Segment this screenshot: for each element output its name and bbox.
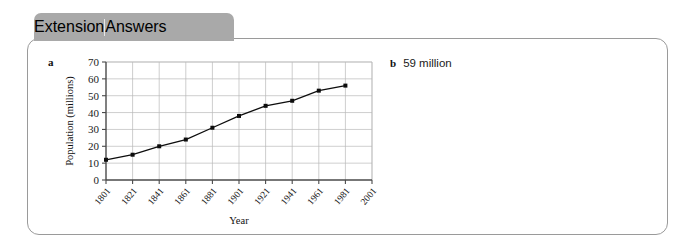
data-point-marker bbox=[104, 158, 108, 162]
x-tick-label: 2001 bbox=[359, 186, 379, 207]
population-line-chart: 0102030405060701801182118411861188119011… bbox=[60, 52, 380, 230]
x-tick-label: 1801 bbox=[93, 186, 113, 207]
x-tick-label: 1821 bbox=[119, 186, 139, 207]
data-point-marker bbox=[264, 104, 268, 108]
data-line bbox=[106, 86, 345, 160]
x-tick-label: 1921 bbox=[252, 186, 272, 207]
x-tick-label: 1861 bbox=[172, 186, 192, 207]
part-b-value: 59 million bbox=[403, 57, 452, 69]
part-a-label: a bbox=[48, 56, 54, 68]
y-tick-label: 60 bbox=[88, 73, 100, 85]
y-tick-label: 0 bbox=[94, 174, 100, 186]
x-tick-label: 1901 bbox=[226, 186, 246, 207]
data-point-marker bbox=[343, 84, 347, 88]
part-b-label: b bbox=[390, 57, 396, 69]
y-tick-label: 30 bbox=[88, 123, 100, 135]
x-tick-label: 1961 bbox=[305, 186, 325, 207]
y-tick-label: 70 bbox=[88, 56, 100, 68]
y-tick-label: 50 bbox=[88, 90, 100, 102]
y-axis-title: Population (millions) bbox=[64, 76, 76, 166]
chart-svg: 0102030405060701801182118411861188119011… bbox=[60, 52, 380, 230]
y-tick-label: 10 bbox=[88, 157, 100, 169]
x-tick-label: 1841 bbox=[146, 186, 166, 207]
data-point-marker bbox=[290, 99, 294, 103]
data-point-marker bbox=[237, 114, 241, 118]
extension-answers-tab[interactable]: Extension Answers bbox=[34, 13, 234, 41]
x-axis-title: Year bbox=[229, 215, 249, 226]
data-point-marker bbox=[317, 89, 321, 93]
data-point-marker bbox=[184, 138, 188, 142]
tab-label-extension: Extension bbox=[34, 18, 104, 36]
y-tick-label: 40 bbox=[88, 107, 100, 119]
part-b-answer: b 59 million bbox=[390, 57, 452, 69]
x-tick-label: 1941 bbox=[279, 186, 299, 207]
x-tick-label: 1981 bbox=[332, 186, 352, 207]
y-tick-label: 20 bbox=[88, 140, 100, 152]
x-tick-label: 1881 bbox=[199, 186, 219, 207]
data-point-marker bbox=[210, 126, 214, 130]
tab-label-answers: Answers bbox=[105, 18, 166, 36]
data-point-marker bbox=[157, 144, 161, 148]
data-point-marker bbox=[131, 153, 135, 157]
